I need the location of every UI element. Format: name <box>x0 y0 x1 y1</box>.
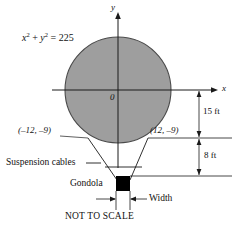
y-axis-arrowhead <box>115 12 121 19</box>
suspension-cable-left <box>88 138 117 180</box>
dim-8ft-arrow-bottom <box>197 169 202 175</box>
equation-equals: = <box>51 32 57 43</box>
width-arrow-left-head <box>110 197 116 202</box>
left-point-extension <box>60 136 88 138</box>
gondola-label: Gondola <box>70 179 103 189</box>
suspension-cables-label: Suspension cables <box>6 158 75 168</box>
point-label-left: (–12, –9) <box>18 126 51 135</box>
balloon-geometry-figure: x2 + y2 = 225 y x 0 (–12, –9) (12, –9) 1… <box>0 0 239 236</box>
origin-label: 0 <box>110 93 115 102</box>
y-axis-label: y <box>111 3 115 12</box>
x-axis-label: x <box>222 84 226 93</box>
equation-radius-squared: 225 <box>59 32 74 43</box>
width-label: Width <box>149 194 172 204</box>
dim-15ft-arrow-bottom <box>197 131 202 137</box>
dim-15ft-arrow-top <box>197 91 202 97</box>
equation-y-exponent: 2 <box>45 31 48 38</box>
dimension-label-8ft: 8 ft <box>204 151 216 160</box>
equation-plus: + <box>32 32 38 43</box>
dimension-label-15ft: 15 ft <box>203 107 220 116</box>
suspension-cable-right <box>130 138 148 180</box>
dim-8ft-arrow-top <box>197 139 202 145</box>
circle-equation-label: x2 + y2 = 225 <box>22 32 74 43</box>
not-to-scale-caption: NOT TO SCALE <box>65 212 134 222</box>
width-arrow-right-head <box>130 197 136 202</box>
equation-x-exponent: 2 <box>26 31 29 38</box>
point-label-right: (12, –9) <box>150 126 179 135</box>
gondola-square <box>116 176 130 191</box>
x-axis-arrowhead <box>211 87 218 93</box>
